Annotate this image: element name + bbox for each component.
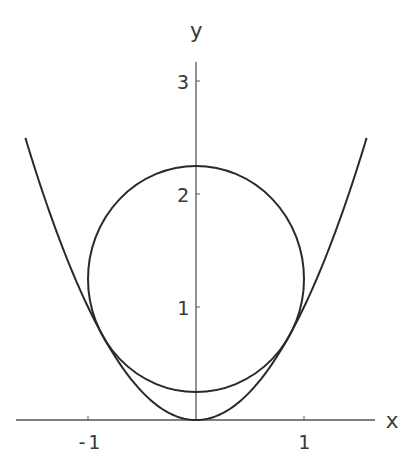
y-tick-label-1: 1: [177, 296, 189, 320]
plot-canvas: -1 1 1 2 3 x y: [0, 0, 412, 464]
y-tick-label-3: 3: [177, 70, 189, 94]
y-axis-label: y: [189, 18, 202, 43]
x-tick-label-1: 1: [298, 430, 310, 454]
x-axis-label: x: [385, 408, 398, 433]
x-tick-label-neg1: -1: [76, 430, 100, 454]
y-tick-label-2: 2: [177, 183, 189, 207]
